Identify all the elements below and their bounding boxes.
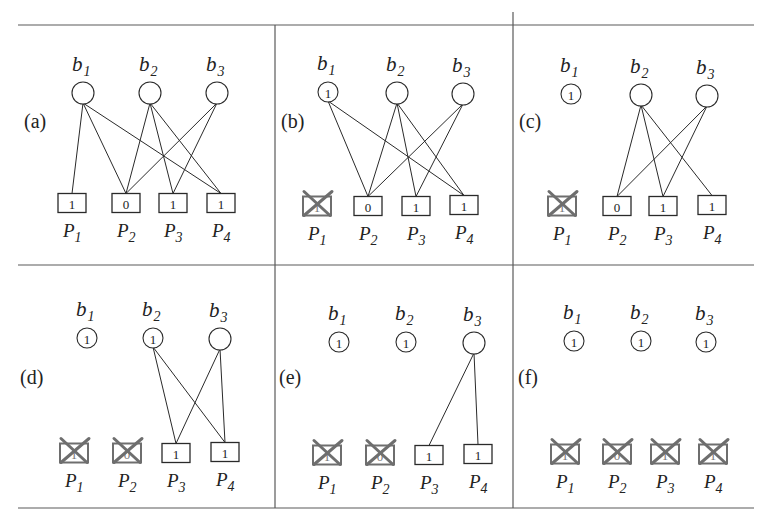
product-node-P3: 1P3 xyxy=(651,440,680,496)
node-value: 1 xyxy=(638,335,645,350)
node-label: b3 xyxy=(695,301,714,328)
circle-node xyxy=(696,85,718,107)
edge xyxy=(176,349,220,444)
product-node-P1: 1P1 xyxy=(548,192,577,248)
bidder-node-b2: b2 xyxy=(630,54,652,106)
node-value: 0 xyxy=(614,200,621,215)
node-label: P4 xyxy=(702,222,722,247)
product-node-P1: 1P1 xyxy=(313,441,342,497)
product-node-P2: 0P2 xyxy=(603,440,632,496)
edge xyxy=(126,103,150,194)
product-node-P2: 0P2 xyxy=(366,441,395,497)
circle-node xyxy=(209,328,231,350)
node-value: 1 xyxy=(426,449,433,464)
panel-label: (d) xyxy=(20,366,43,389)
circle-node xyxy=(463,332,485,354)
node-label: b2 xyxy=(139,52,158,79)
circle-node xyxy=(72,82,94,104)
edge xyxy=(150,103,173,194)
node-value: 1 xyxy=(703,336,710,351)
bidder-node-b3: b3 xyxy=(452,53,474,105)
node-value: 1 xyxy=(84,332,91,347)
product-node-P3: 1P3 xyxy=(402,197,430,248)
node-label: P2 xyxy=(607,223,627,248)
panel-a: (a)b1b2b31P10P21P31P4 xyxy=(24,52,235,245)
node-value: 1 xyxy=(475,448,482,463)
edge xyxy=(663,106,707,197)
node-value: 1 xyxy=(568,88,575,103)
node-label: P3 xyxy=(166,470,186,495)
product-node-P2: 0P2 xyxy=(112,194,140,245)
node-label: b2 xyxy=(142,297,161,324)
circle-node xyxy=(386,82,408,104)
panel-label: (b) xyxy=(281,110,304,133)
edge xyxy=(617,106,707,197)
node-label: P2 xyxy=(607,471,627,496)
edge xyxy=(126,103,217,194)
node-label: P3 xyxy=(419,472,439,497)
panel-b: (b)b11b2b31P10P21P31P4 xyxy=(281,51,478,248)
bidder-node-b3: b3 xyxy=(696,55,718,107)
circle-node xyxy=(452,83,474,105)
product-node-P4: 1P4 xyxy=(464,445,492,496)
edge xyxy=(617,105,641,197)
panel-label: (a) xyxy=(24,110,46,133)
circle-node xyxy=(206,82,228,104)
bidder-node-b1: b11 xyxy=(328,301,349,352)
node-label: b1 xyxy=(317,51,336,78)
bidder-node-b1: b11 xyxy=(317,51,338,102)
node-label: b1 xyxy=(72,52,91,79)
node-label: b3 xyxy=(463,302,482,329)
node-label: P4 xyxy=(703,471,723,496)
bidder-node-b3: b3 xyxy=(463,302,485,354)
product-node-P4: 1P4 xyxy=(699,440,728,496)
product-node-P2: 0P2 xyxy=(354,197,382,248)
node-label: P3 xyxy=(163,220,183,245)
product-node-P1: 1P1 xyxy=(303,192,332,248)
bidder-node-b3: b3 xyxy=(206,52,228,104)
edge xyxy=(397,103,416,197)
edge xyxy=(416,104,463,197)
node-label: b3 xyxy=(452,53,471,80)
product-node-P4: 1P4 xyxy=(698,196,726,247)
node-value: 1 xyxy=(173,447,180,462)
node-label: b2 xyxy=(386,52,405,79)
node-value: 1 xyxy=(571,335,578,350)
node-value: 1 xyxy=(403,336,410,351)
bidder-node-b1: b11 xyxy=(563,300,584,351)
node-label: P1 xyxy=(307,223,327,248)
node-value: 1 xyxy=(170,197,177,212)
product-node-P1: 1P1 xyxy=(58,194,86,245)
node-value: 1 xyxy=(461,199,468,214)
bidder-node-b1: b11 xyxy=(76,297,97,348)
edge xyxy=(429,353,474,446)
bidder-node-b1: b11 xyxy=(560,53,581,104)
panel-d: (d)b11b21b31P10P21P31P4 xyxy=(20,297,239,495)
edge xyxy=(397,103,464,196)
node-label: P2 xyxy=(358,223,378,248)
product-node-P2: 0P2 xyxy=(113,439,142,495)
node-label: b3 xyxy=(696,55,715,82)
product-node-P4: 1P4 xyxy=(211,443,239,494)
panel-c: (c)b11b2b31P10P21P31P4 xyxy=(519,53,726,248)
edge xyxy=(220,349,225,443)
node-label: P2 xyxy=(370,472,390,497)
node-value: 1 xyxy=(69,197,76,212)
bidder-node-b2: b21 xyxy=(395,301,416,352)
product-node-P3: 1P3 xyxy=(162,444,190,495)
panel-label: (c) xyxy=(519,110,541,133)
product-node-P3: 1P3 xyxy=(649,197,677,248)
node-label: P2 xyxy=(116,220,136,245)
edge xyxy=(328,101,464,196)
node-value: 1 xyxy=(413,200,420,215)
bidder-node-b3: b3 xyxy=(209,298,231,350)
node-value: 0 xyxy=(365,200,372,215)
bidder-node-b2: b21 xyxy=(630,300,651,351)
node-value: 1 xyxy=(222,446,229,461)
node-value: 1 xyxy=(325,86,332,101)
node-value: 1 xyxy=(660,200,667,215)
edge xyxy=(83,103,221,194)
bidder-node-b3: b31 xyxy=(695,301,716,352)
node-label: P4 xyxy=(215,469,235,494)
node-label: b1 xyxy=(76,297,95,324)
